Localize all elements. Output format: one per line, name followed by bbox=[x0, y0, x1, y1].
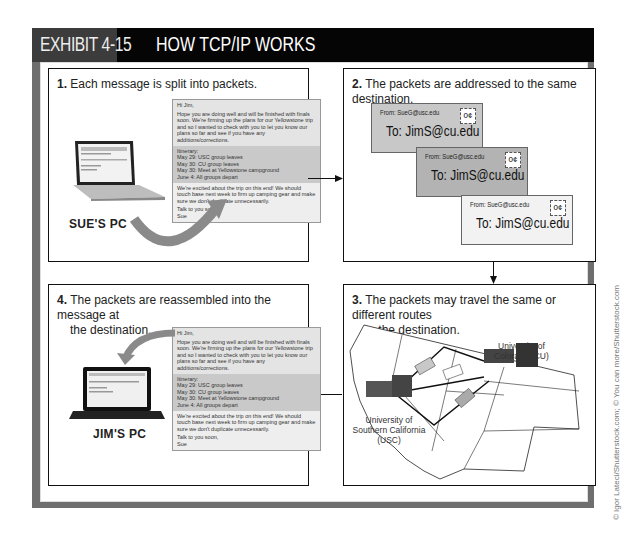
image-credit: © Igor Lateci/Shutterstock.com; © You ca… bbox=[612, 285, 621, 520]
packet-envelope: From: SueG@usc.edu To: JimS@cu.edu 0¢ bbox=[416, 147, 528, 197]
exhibit-header: EXHIBIT 4-15 HOW TCP/IP WORKS bbox=[32, 28, 594, 62]
panel-1-caption: 1. Each message is split into packets. bbox=[57, 77, 257, 92]
panel-step-4: 4. The packets are reassembled into the … bbox=[48, 284, 309, 486]
us-west-map bbox=[344, 321, 595, 485]
arrowhead-icon bbox=[490, 276, 497, 284]
usc-label: University ofSouthern California(USC) bbox=[349, 415, 429, 445]
packet-envelope: From: SueG@usc.edu To: JimS@cu.edu 0¢ bbox=[461, 195, 573, 245]
exhibit-title: HOW TCP/IP WORKS bbox=[156, 33, 315, 56]
curved-arrow-icon bbox=[129, 199, 229, 259]
panel-step-3: 3. The packets may travel the same or di… bbox=[343, 284, 596, 486]
laptop-icon bbox=[69, 365, 169, 421]
exhibit-number: EXHIBIT 4-15 bbox=[40, 33, 131, 56]
stamp-icon: 0¢ bbox=[550, 200, 566, 216]
packet-envelope: From: SueG@usc.edu To: JimS@cu.edu 0¢ bbox=[371, 103, 483, 153]
laptop-icon bbox=[67, 139, 167, 201]
email-message: Hi Jim, Hope you are doing well and will… bbox=[172, 327, 321, 451]
exhibit-number-tag: EXHIBIT 4-15 bbox=[32, 28, 117, 62]
panel-step-2: 2. The packets are addressed to the same… bbox=[343, 68, 596, 262]
stamp-icon: 0¢ bbox=[460, 108, 476, 124]
arrowhead-icon bbox=[335, 175, 343, 182]
cu-label: University ofColorado (CU) bbox=[494, 341, 549, 361]
jim-pc-label: JIM'S PC bbox=[93, 427, 146, 441]
sue-pc-label: SUE'S PC bbox=[69, 217, 127, 231]
panel-step-1: 1. Each message is split into packets. H… bbox=[48, 68, 309, 262]
curved-arrow-icon bbox=[115, 329, 179, 365]
stamp-icon: 0¢ bbox=[505, 152, 521, 168]
